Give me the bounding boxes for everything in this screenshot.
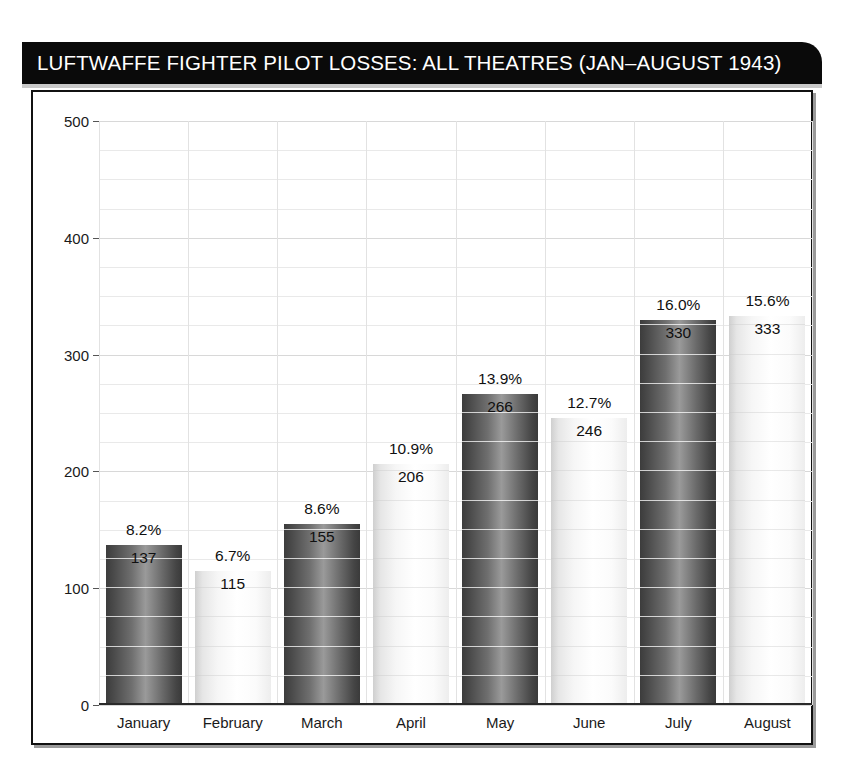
bar-rule: [284, 616, 360, 617]
bar-slot: 1378.2%: [99, 121, 188, 705]
x-axis-label: June: [545, 714, 634, 731]
bar-slot: 1156.7%: [188, 121, 277, 705]
bar-rule: [640, 616, 716, 617]
bar-rule: [551, 616, 627, 617]
bar[interactable]: 137: [106, 545, 182, 705]
bar-rule: [640, 587, 716, 588]
bar-rules: [284, 524, 360, 705]
bar-rule: [640, 675, 716, 676]
bar-rule: [729, 675, 805, 676]
plot-area: 0100200300400500 1378.2%1156.7%1558.6%20…: [99, 121, 812, 705]
bar-rule: [462, 675, 538, 676]
y-axis-tick: [93, 705, 99, 706]
bar-rule: [462, 529, 538, 530]
bar-rule: [640, 412, 716, 413]
bar-percent-label: 13.9%: [478, 370, 522, 388]
y-axis-label: 300: [64, 346, 89, 363]
bar[interactable]: 266: [462, 394, 538, 705]
bar[interactable]: 246: [551, 418, 627, 705]
bar-rule: [195, 675, 271, 676]
bar-value-label: 330: [640, 324, 716, 342]
bar-percent-label: 8.2%: [126, 521, 161, 539]
bar[interactable]: 155: [284, 524, 360, 705]
bar-rule: [551, 470, 627, 471]
x-axis-label: February: [188, 714, 277, 731]
bar-slot: 24612.7%: [545, 121, 634, 705]
bar[interactable]: 333: [729, 316, 805, 705]
bar-rule: [462, 587, 538, 588]
bar-rule: [373, 587, 449, 588]
bar-rules: [729, 316, 805, 705]
y-axis-label: 0: [81, 697, 89, 714]
chart-figure: LUFTWAFFE FIGHTER PILOT LOSSES: ALL THEA…: [0, 0, 843, 774]
bar-rule: [729, 441, 805, 442]
bar-rules: [462, 394, 538, 705]
bar-rule: [462, 441, 538, 442]
x-axis-label: May: [456, 714, 545, 731]
bar-rule: [373, 558, 449, 559]
bar-rule: [551, 558, 627, 559]
y-axis-label: 500: [64, 113, 89, 130]
bar-rule: [106, 587, 182, 588]
y-axis-label: 200: [64, 463, 89, 480]
page-title: LUFTWAFFE FIGHTER PILOT LOSSES: ALL THEA…: [22, 51, 781, 75]
bar-rule: [640, 529, 716, 530]
bar-value-label: 333: [729, 320, 805, 338]
bar-slot: 1558.6%: [277, 121, 366, 705]
bar-value-label: 206: [373, 468, 449, 486]
bar-rule: [640, 500, 716, 501]
bar-rule: [373, 500, 449, 501]
y-axis-label: 400: [64, 229, 89, 246]
x-axis-label: January: [99, 714, 188, 731]
bar-rules: [551, 418, 627, 705]
x-axis-label: April: [366, 714, 455, 731]
bar-rule: [195, 616, 271, 617]
bar-percent-label: 15.6%: [745, 292, 789, 310]
x-axis-label: August: [723, 714, 812, 731]
bar-rule: [462, 470, 538, 471]
bar-rule: [462, 616, 538, 617]
card-shadow-bottom: [34, 745, 816, 748]
bar-rule: [729, 646, 805, 647]
bar-rule: [640, 441, 716, 442]
bar-rule: [462, 500, 538, 501]
bar[interactable]: 115: [195, 571, 271, 705]
bar-rules: [640, 320, 716, 705]
axis-baseline: [99, 703, 812, 705]
bar-slot: 33016.0%: [634, 121, 723, 705]
bar-slot: 26613.9%: [456, 121, 545, 705]
title-underline: [22, 84, 822, 88]
bar-rule: [195, 646, 271, 647]
bar-value-label: 266: [462, 398, 538, 416]
bar-value-label: 246: [551, 422, 627, 440]
bar-rule: [106, 616, 182, 617]
chart-title-bar: LUFTWAFFE FIGHTER PILOT LOSSES: ALL THEA…: [22, 42, 822, 84]
bar[interactable]: 206: [373, 464, 449, 705]
bar-rule: [640, 470, 716, 471]
bar[interactable]: 330: [640, 320, 716, 705]
bar-rule: [551, 646, 627, 647]
bar-rules: [373, 464, 449, 705]
bar-rule: [729, 616, 805, 617]
bar-rule: [729, 558, 805, 559]
bar-rule: [640, 354, 716, 355]
bar-percent-label: 6.7%: [215, 547, 250, 565]
x-axis-label: March: [277, 714, 366, 731]
bar-rule: [373, 675, 449, 676]
y-axis-label: 100: [64, 580, 89, 597]
bar-percent-label: 16.0%: [656, 296, 700, 314]
bar-rule: [284, 646, 360, 647]
bar-rule: [640, 646, 716, 647]
card-shadow-right: [813, 93, 816, 748]
bar-rule: [640, 383, 716, 384]
x-axis-label: July: [634, 714, 723, 731]
bar-value-label: 137: [106, 549, 182, 567]
bar-rule: [729, 412, 805, 413]
bar-value-label: 115: [195, 575, 271, 593]
bar-percent-label: 8.6%: [304, 500, 339, 518]
bar-rule: [284, 675, 360, 676]
bar-rule: [551, 675, 627, 676]
bar-rule: [462, 558, 538, 559]
bar-rule: [106, 675, 182, 676]
bar-value-label: 155: [284, 528, 360, 546]
